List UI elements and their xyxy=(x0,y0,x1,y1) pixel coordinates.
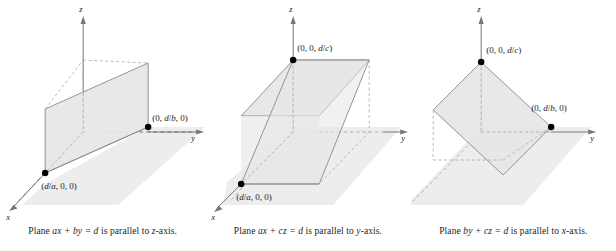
z-axis-arrowhead xyxy=(81,16,86,24)
caption-lead: Plane xyxy=(439,226,463,236)
caption-tail: -axis. xyxy=(361,226,382,236)
caption-equation: ax + cz = d xyxy=(258,226,303,236)
x-axis-label: x xyxy=(5,212,10,222)
caption-tail: -axis. xyxy=(156,226,177,236)
label-x-intercept: (d/a, 0, 0) xyxy=(41,181,77,191)
label-y-intercept: (0, d/b, 0) xyxy=(531,103,567,113)
panel-3-caption: Plane by + cz = d is parallel to x-axis. xyxy=(411,225,616,237)
vertex-z-intercept xyxy=(290,57,296,63)
vertex-y-intercept xyxy=(548,124,554,130)
panel-2-caption: Plane ax + cz = d is parallel to y-axis. xyxy=(205,225,410,237)
panel-1-caption: Plane ax + by = d is parallel to z-axis. xyxy=(0,225,205,237)
panel-plane-ax-by: z y x (d/a, 0, 0) (0, xyxy=(0,0,205,251)
panel-1-diagram: z y x (d/a, 0, 0) (0, xyxy=(0,0,205,222)
z-axis-label: z xyxy=(476,4,481,14)
caption-equation: ax + by = d xyxy=(52,226,98,236)
caption-equation: by + cz = d xyxy=(463,226,508,236)
z-axis-arrowhead xyxy=(291,16,296,24)
x-axis-arrowhead xyxy=(214,205,222,212)
vertex-x-intercept xyxy=(238,181,244,187)
vertex-x-intercept xyxy=(42,170,48,176)
z-axis-arrowhead xyxy=(478,16,483,24)
y-axis-label: y xyxy=(400,133,405,143)
label-x-intercept: (d/a, 0, 0) xyxy=(236,192,272,202)
panel-3-diagram: z y (0, 0, d/c) (0, d/b, 0) xyxy=(411,0,616,222)
x-axis-arrowhead xyxy=(9,205,17,211)
caption-lead: Plane xyxy=(28,226,52,236)
z-axis-label: z xyxy=(78,4,83,14)
y-axis-label: y xyxy=(190,133,195,143)
x-axis-label: x xyxy=(210,212,215,222)
caption-middle: is parallel to xyxy=(508,226,561,236)
vertex-z-intercept xyxy=(478,59,484,65)
label-z-intercept: (0, 0, d/c) xyxy=(486,45,521,55)
caption-middle: is parallel to xyxy=(98,226,151,236)
planes-figure: z y x (d/a, 0, 0) (0, xyxy=(0,0,616,251)
panel-plane-by-cz: z y (0, 0, d/c) (0, d/b, 0) Plane xyxy=(411,0,616,251)
label-y-intercept: (0, d/b, 0) xyxy=(152,113,188,123)
caption-middle: is parallel to xyxy=(303,226,356,236)
y-axis-label: y xyxy=(589,133,594,143)
panel-plane-ax-cz: z y x (0, 0, d xyxy=(205,0,410,251)
caption-lead: Plane xyxy=(234,226,258,236)
panel-2-diagram: z y x (0, 0, d xyxy=(205,0,410,222)
vertex-y-intercept xyxy=(145,124,151,130)
z-axis-label: z xyxy=(288,4,293,14)
dashed-top-to-plane xyxy=(83,60,148,63)
caption-tail: -axis. xyxy=(566,226,587,236)
label-z-intercept: (0, 0, d/c) xyxy=(297,43,332,53)
